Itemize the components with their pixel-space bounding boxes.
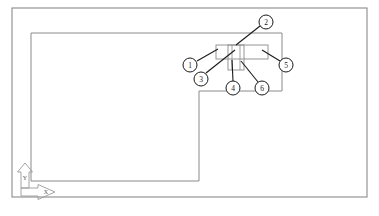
balloon-label-4: 4 xyxy=(231,84,235,93)
balloon-label-6: 6 xyxy=(260,84,264,93)
callout-balloon-4[interactable]: 4 xyxy=(226,81,240,95)
callout-balloon-5[interactable]: 5 xyxy=(279,58,293,72)
callout-balloon-2[interactable]: 2 xyxy=(259,15,273,29)
drawing-canvas[interactable]: 1 2 3 4 5 6 xyxy=(0,0,379,216)
balloon-label-5: 5 xyxy=(284,61,288,70)
callout-balloon-1[interactable]: 1 xyxy=(183,58,197,72)
canvas-background xyxy=(0,0,379,216)
balloon-label-2: 2 xyxy=(264,18,268,27)
balloon-label-3: 3 xyxy=(199,75,203,84)
balloon-label-1: 1 xyxy=(188,61,192,70)
technical-drawing-svg[interactable]: 1 2 3 4 5 6 xyxy=(0,0,379,216)
y-axis-label: Y xyxy=(23,175,28,181)
callout-balloon-3[interactable]: 3 xyxy=(194,72,208,86)
x-axis-label: X xyxy=(44,189,49,195)
callout-balloon-6[interactable]: 6 xyxy=(255,81,269,95)
